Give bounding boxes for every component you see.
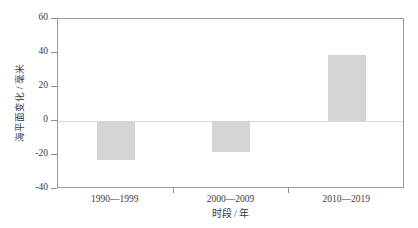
x-axis-tick <box>173 188 174 193</box>
bar-slot <box>174 19 290 187</box>
x-axis-tick-label: 2010—2019 <box>286 195 406 205</box>
x-axis-title: 时段 / 年 <box>57 209 404 219</box>
bars-layer <box>58 19 403 187</box>
x-axis-tick-label: 1990—1999 <box>55 195 175 205</box>
y-axis-tick <box>51 188 57 189</box>
bar[interactable] <box>328 55 366 121</box>
plot-area <box>57 18 404 188</box>
bar[interactable] <box>212 121 250 152</box>
y-axis-tick-label: -40 <box>8 183 48 193</box>
y-axis-tick-label: 20 <box>8 81 48 91</box>
y-axis-title: 海平面变化 / 毫米 <box>11 18 27 188</box>
bar-slot <box>58 19 174 187</box>
y-axis-title-text: 海平面变化 / 毫米 <box>12 64 26 141</box>
x-axis-tick <box>288 188 289 193</box>
y-axis-tick-label: 0 <box>8 115 48 125</box>
y-axis-tick-label: -20 <box>8 149 48 159</box>
x-axis-tick-label: 2000—2009 <box>171 195 291 205</box>
bar[interactable] <box>97 121 135 160</box>
y-axis-tick-label: 40 <box>8 47 48 57</box>
bar-chart: 海平面变化 / 毫米 -40-200204060 1990—19992000—2… <box>0 0 418 228</box>
bar-slot <box>289 19 405 187</box>
y-axis-tick-label: 60 <box>8 13 48 23</box>
